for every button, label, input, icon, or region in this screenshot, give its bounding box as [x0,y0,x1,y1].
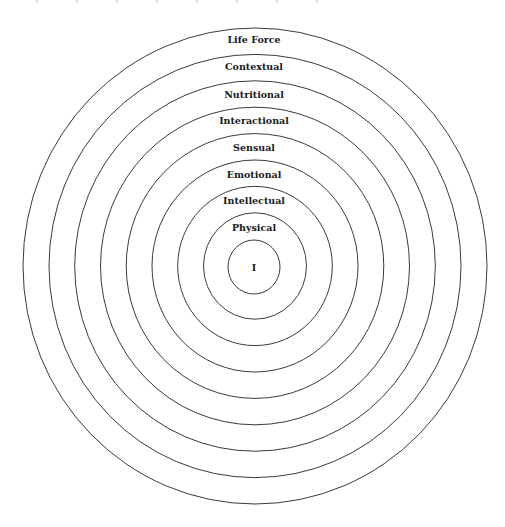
label-sensual: Sensual [233,142,275,153]
label-intellectual: Intellectual [223,195,285,206]
label-emotional: Emotional [227,169,282,180]
label-interactional: Interactional [219,115,289,126]
label-contextual: Contextual [225,61,283,72]
label-life-force: Life Force [227,34,280,45]
label-physical: Physical [232,222,276,233]
label-nutritional: Nutritional [224,89,284,100]
label-self-center: I [252,262,257,273]
labels-layer: Life Force Contextual Nutritional Intera… [219,34,289,273]
concentric-circles-diagram: Life Force Contextual Nutritional Intera… [0,0,505,527]
